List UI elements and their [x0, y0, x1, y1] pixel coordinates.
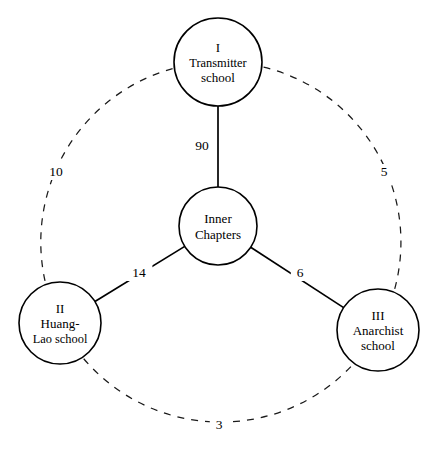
node-label-anarchist-school-line-3: school: [361, 338, 395, 353]
node-label-inner-chapters-line-2: Chapters: [195, 227, 241, 242]
node-anarchist-school[interactable]: IIIAnarchistschool: [337, 289, 419, 371]
node-label-transmitter-school-line-1: I: [216, 40, 220, 55]
node-layer: InnerChaptersITransmitterschoolIIHuang-L…: [19, 18, 419, 371]
node-label-huang-lao-school-line-1: II: [56, 301, 65, 316]
edge-weight-dashed-huang-lao-to-anarchist: 3: [216, 417, 223, 432]
node-label-anarchist-school-line-2: Anarchist: [353, 323, 404, 338]
edge-weight-dashed-transmitter-to-huang-lao: 10: [49, 164, 63, 179]
node-label-inner-chapters-line-1: Inner: [204, 211, 232, 226]
node-transmitter-school[interactable]: ITransmitterschool: [174, 18, 262, 106]
edge-weight-solid-inner-to-huang-lao: 14: [132, 265, 146, 280]
node-label-transmitter-school-line-2: Transmitter: [189, 56, 247, 70]
node-label-huang-lao-school-line-3: Lao school: [33, 332, 88, 346]
dashed-edge-huang-lao-to-anarchist: [84, 359, 353, 422]
edge-weight-solid-inner-to-anarchist: 6: [297, 265, 304, 280]
diagram-canvas: InnerChaptersITransmitterschoolIIHuang-L…: [0, 0, 438, 449]
node-label-transmitter-school-line-3: school: [201, 70, 235, 85]
node-label-anarchist-school-line-1: III: [372, 308, 385, 323]
node-inner-chapters[interactable]: InnerChapters: [179, 187, 257, 265]
edge-weight-solid-inner-to-transmitter: 90: [195, 138, 209, 153]
node-huang-lao-school[interactable]: IIHuang-Lao school: [19, 282, 101, 364]
edge-weight-dashed-transmitter-to-anarchist: 5: [381, 164, 388, 179]
graph-svg: InnerChaptersITransmitterschoolIIHuang-L…: [0, 0, 438, 449]
node-label-huang-lao-school-line-2: Huang-: [41, 316, 80, 331]
